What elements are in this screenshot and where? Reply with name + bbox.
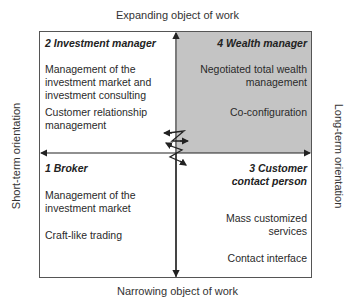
axes-arrows	[0, 0, 355, 303]
